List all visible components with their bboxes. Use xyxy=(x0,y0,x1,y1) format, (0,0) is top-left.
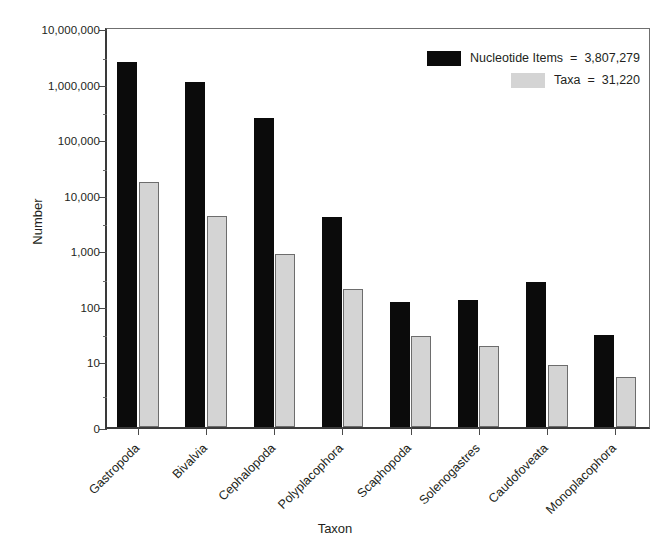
legend-label-taxa: Taxa xyxy=(554,73,580,87)
y-tick-label: 10 xyxy=(87,357,100,369)
y-tick-label: 1,000 xyxy=(71,246,100,258)
y-minor-tick-mark xyxy=(103,281,108,282)
x-category-label: Caudofoveata xyxy=(486,441,551,506)
y-tick-mark xyxy=(99,252,107,253)
bar-nucleotide-items xyxy=(526,282,546,427)
legend-item-nucleotide-items: Nucleotide Items = 3,807,279 xyxy=(420,47,640,69)
bar-taxa xyxy=(207,216,227,427)
y-axis-title: Number xyxy=(30,198,45,244)
legend-item-taxa: Taxa = 31,220 xyxy=(420,69,640,91)
y-tick-label: 10,000,000 xyxy=(41,24,100,36)
bar-taxa xyxy=(411,336,431,427)
x-tick-mark xyxy=(411,427,412,435)
x-tick-mark xyxy=(342,427,343,435)
y-minor-tick-mark xyxy=(103,59,108,60)
bar-taxa xyxy=(479,346,499,427)
bar-nucleotide-items xyxy=(322,217,342,427)
y-tick-label: 1,000,000 xyxy=(48,80,100,92)
x-tick-mark xyxy=(274,427,275,435)
black-swatch-icon xyxy=(427,51,461,66)
legend-label-nucleotide-items: Nucleotide Items xyxy=(470,51,563,65)
y-tick-mark xyxy=(99,308,107,309)
x-category-label: Bivalvia xyxy=(170,441,210,481)
legend-value-taxa: 31,220 xyxy=(602,73,640,87)
x-category-label: Solenogastres xyxy=(416,441,482,507)
y-tick-label: 0 xyxy=(94,423,101,435)
chart-legend: Nucleotide Items = 3,807,279 Taxa = 31,2… xyxy=(420,47,640,91)
legend-equals-nucleotide-items: = xyxy=(570,51,577,65)
x-category-label: Scaphopoda xyxy=(355,441,415,501)
y-minor-tick-mark xyxy=(103,114,108,115)
legend-equals-taxa: = xyxy=(587,73,594,87)
x-tick-mark xyxy=(206,427,207,435)
y-minor-tick-mark xyxy=(103,336,108,337)
bar-nucleotide-items xyxy=(254,118,274,427)
y-minor-tick-mark xyxy=(103,225,108,226)
bar-nucleotide-items xyxy=(185,82,205,427)
x-tick-mark xyxy=(547,427,548,435)
y-tick-label: 10,000 xyxy=(64,191,100,203)
bar-nucleotide-items xyxy=(117,62,137,427)
x-tick-mark xyxy=(615,427,616,435)
bar-taxa xyxy=(548,365,568,427)
bar-taxa xyxy=(343,289,363,427)
x-category-label: Cephalopoda xyxy=(216,441,278,503)
x-category-label: Gastropoda xyxy=(86,441,142,497)
bar-nucleotide-items xyxy=(458,300,478,427)
bar-nucleotide-items xyxy=(390,302,410,427)
grey-swatch-icon xyxy=(511,73,545,88)
y-tick-label: 100 xyxy=(81,302,101,314)
bar-chart-figure: Number 10,000,0001,000,000100,00010,0001… xyxy=(0,0,670,554)
bar-taxa xyxy=(139,182,159,427)
x-axis-title: Taxon xyxy=(0,521,670,536)
y-tick-label: 100,000 xyxy=(58,135,100,147)
y-tick-mark xyxy=(99,30,107,31)
x-tick-mark xyxy=(479,427,480,435)
y-minor-tick-mark xyxy=(103,397,108,398)
y-tick-mark xyxy=(99,141,107,142)
y-tick-mark xyxy=(99,197,107,198)
y-tick-mark xyxy=(99,86,107,87)
bar-nucleotide-items xyxy=(594,335,614,427)
x-category-label: Monoplacophora xyxy=(543,441,619,517)
x-category-label: Polyplacophora xyxy=(276,441,347,512)
y-tick-mark xyxy=(99,429,107,430)
y-tick-mark xyxy=(99,363,107,364)
y-minor-tick-mark xyxy=(103,170,108,171)
legend-value-nucleotide-items: 3,807,279 xyxy=(584,51,640,65)
bar-taxa xyxy=(616,377,636,427)
x-tick-mark xyxy=(138,427,139,435)
bar-taxa xyxy=(275,254,295,427)
